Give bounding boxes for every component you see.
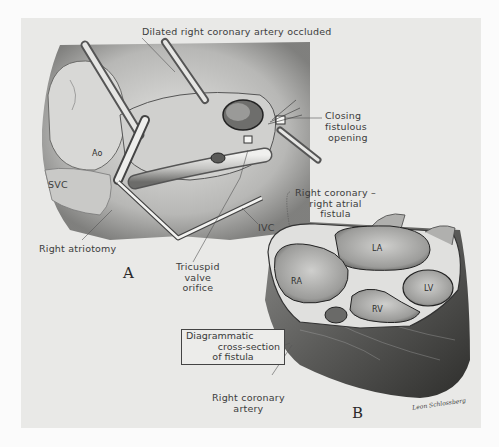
panel-b-heart-cross-section: [265, 214, 470, 398]
label-la: LA: [372, 244, 383, 255]
label-line: opening: [325, 132, 368, 143]
label-line: fistula: [295, 209, 376, 220]
label-line: Diagrammatic: [186, 331, 280, 342]
label-line: Right coronary: [212, 392, 285, 403]
label-right-atriotomy: Right atriotomy: [39, 244, 116, 255]
illustration-artwork: [0, 0, 499, 447]
label-line: Right coronary –: [295, 188, 376, 199]
label-ivc: IVC: [258, 223, 275, 234]
label-line: Closing: [325, 110, 368, 121]
label-closing-fistulous-opening: Closing fistulous opening: [325, 110, 368, 143]
label-ao: Ao: [92, 149, 103, 160]
label-tricuspid-valve-orifice: Tricuspid valve orifice: [176, 262, 220, 294]
label-line: fistulous: [325, 121, 368, 132]
label-ra: RA: [291, 277, 302, 288]
label-line: Tricuspid: [176, 262, 220, 273]
diagrammatic-cross-section-box: Diagrammatic cross-section of fistula: [181, 329, 285, 365]
label-rv: RV: [372, 305, 383, 316]
label-line: artery: [212, 403, 285, 414]
panel-letter-b: B: [352, 404, 363, 422]
label-rca-ra-fistula: Right coronary – right atrial fistula: [295, 188, 376, 220]
label-svc: SVC: [48, 180, 68, 191]
label-line: of fistula: [186, 352, 280, 363]
label-dilated-rca-occluded: Dilated right coronary artery occluded: [142, 27, 332, 38]
label-lv: LV: [424, 284, 433, 295]
label-right-coronary-artery: Right coronary artery: [212, 392, 285, 414]
panel-letter-a: A: [123, 264, 134, 282]
label-line: orifice: [176, 283, 220, 294]
